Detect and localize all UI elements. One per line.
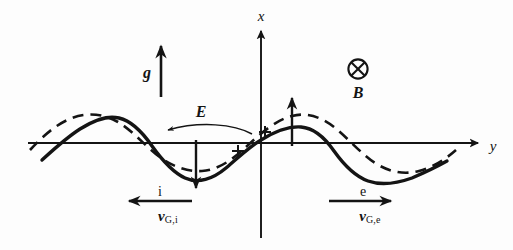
magnetic-field-label: B xyxy=(353,85,364,101)
electron-drift-velocity-label: vG,e xyxy=(359,209,380,226)
ion-species-label: i xyxy=(158,185,162,199)
ion-velocity-symbol: v xyxy=(158,208,165,224)
electron-species-label: e xyxy=(360,185,366,199)
circle-cross-into-page-icon xyxy=(348,59,367,78)
electron-velocity-subscript: G,e xyxy=(366,214,381,225)
perturbed-sheet-solid-curve xyxy=(42,117,447,183)
x-axis-label: x xyxy=(258,9,265,24)
y-axis-label: y xyxy=(490,139,497,154)
diagram-canvas xyxy=(0,0,513,250)
ion-velocity-subscript: G,i xyxy=(165,214,178,225)
electric-field-label: E xyxy=(196,104,207,120)
electron-velocity-symbol: v xyxy=(359,208,366,224)
ion-drift-velocity-label: vG,i xyxy=(158,209,178,226)
gravity-label: g xyxy=(143,65,151,81)
electric-field-curved-arrow xyxy=(168,125,252,134)
physics-diagram-figure: x y g B E i e vG,i vG,e xyxy=(0,0,513,250)
